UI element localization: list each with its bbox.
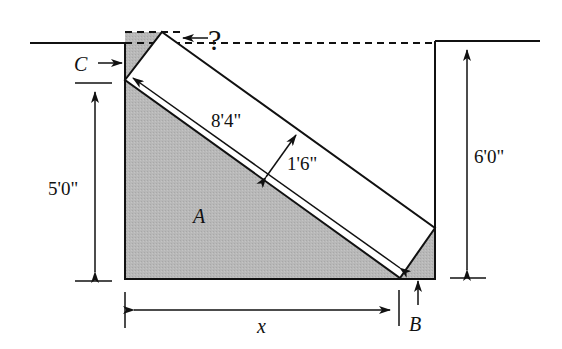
board-width-label: 1'6" bbox=[287, 153, 317, 174]
question-label: ? bbox=[208, 23, 221, 56]
a-label: A bbox=[191, 205, 206, 227]
c-label: C bbox=[74, 53, 88, 75]
trench-diagram: 8'4" 1'6" 5'0" 6'0" x C ? A B bbox=[0, 0, 562, 349]
board-length-label: 8'4" bbox=[211, 110, 241, 131]
left-height-label: 5'0" bbox=[48, 178, 78, 199]
b-label: B bbox=[409, 313, 421, 335]
right-height-label: 6'0" bbox=[474, 146, 504, 167]
x-label: x bbox=[256, 315, 266, 337]
